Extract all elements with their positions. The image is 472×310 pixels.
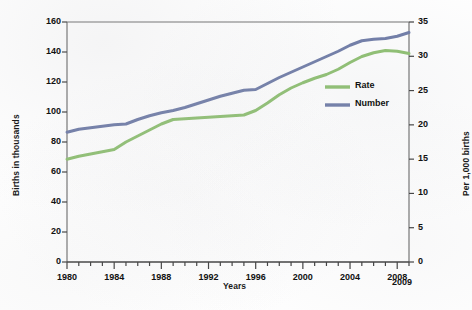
y-axis-left-title: Births in thousands [11,114,21,196]
legend-item-rate-label: Rate [355,80,375,90]
x-tick-1980: 1980 [47,272,87,282]
y-tick-left-20: 20 [29,226,61,236]
y-axis-right-title: Per 1,000 births [461,131,471,196]
data-series-layer [67,33,409,160]
y-tick-left-160: 160 [29,16,61,26]
x-tick-2008: 2008 [377,272,417,282]
x-axis-ticks [67,262,409,269]
y-tick-left-60: 60 [29,166,61,176]
y-tick-left-100: 100 [29,106,61,116]
y-tick-right-15: 15 [418,153,444,163]
x-tick-1984: 1984 [94,272,134,282]
x-tick-1996: 1996 [236,272,276,282]
y-axis-left-ticks [62,22,67,262]
y-tick-right-35: 35 [418,16,444,26]
y-tick-left-80: 80 [29,136,61,146]
y-tick-left-140: 140 [29,46,61,56]
y-axis-right-ticks [409,22,414,262]
y-tick-right-20: 20 [418,119,444,129]
y-tick-right-25: 25 [418,85,444,95]
x-tick-2004: 2004 [330,272,370,282]
y-tick-right-10: 10 [418,187,444,197]
y-tick-right-5: 5 [418,222,444,232]
x-tick-1988: 1988 [141,272,181,282]
y-tick-left-40: 40 [29,196,61,206]
y-tick-right-30: 30 [418,50,444,60]
chart-canvas [0,0,472,310]
y-tick-left-120: 120 [29,76,61,86]
y-tick-right-0: 0 [418,256,444,266]
y-tick-left-0: 0 [29,256,61,266]
legend-item-number-label: Number [355,98,389,108]
x-tick-1992: 1992 [189,272,229,282]
legend-swatches [325,87,350,105]
x-axis-title: Years [223,281,246,291]
x-tick-2000: 2000 [283,272,323,282]
line-chart: Births in thousands Per 1,000 births Yea… [0,0,472,310]
